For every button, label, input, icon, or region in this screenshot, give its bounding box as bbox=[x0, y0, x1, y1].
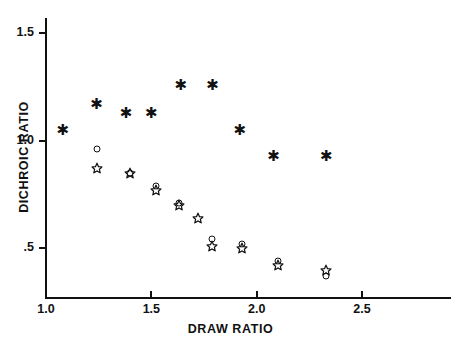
y-tick-1.0 bbox=[39, 140, 46, 142]
data-point-star bbox=[150, 184, 161, 195]
x-tick-label-2.5: 2.5 bbox=[342, 302, 382, 316]
x-tick-label-1.0: 1.0 bbox=[26, 302, 66, 316]
data-point-asterisk: ✱ bbox=[206, 81, 219, 89]
data-point-star bbox=[91, 163, 102, 174]
data-point-star bbox=[236, 243, 247, 254]
data-point-asterisk: ✱ bbox=[90, 100, 103, 108]
data-point-asterisk: ✱ bbox=[267, 152, 280, 160]
y-tick-1.5 bbox=[39, 32, 46, 34]
plot-area: ✱✱✱✱✱✱✱✱✱ bbox=[46, 18, 450, 298]
y-tick-.5 bbox=[39, 247, 46, 249]
y-axis-label: DICHROIC RATIO bbox=[17, 67, 31, 247]
data-point-asterisk: ✱ bbox=[57, 126, 70, 134]
data-point-star bbox=[272, 260, 283, 271]
x-tick-label-2.0: 2.0 bbox=[237, 302, 277, 316]
x-tick-label-1.5: 1.5 bbox=[131, 302, 171, 316]
data-point-star bbox=[192, 212, 203, 223]
y-tick-label-1.5: 1.5 bbox=[0, 25, 34, 39]
chart-figure: 1.51.0.51.01.52.02.5 ✱✱✱✱✱✱✱✱✱ DRAW RATI… bbox=[0, 0, 461, 342]
data-point-circle bbox=[93, 146, 100, 153]
data-point-asterisk: ✱ bbox=[175, 81, 188, 89]
data-point-star bbox=[125, 167, 136, 178]
data-point-star bbox=[207, 240, 218, 251]
data-point-star bbox=[321, 264, 332, 275]
data-point-asterisk: ✱ bbox=[145, 109, 158, 117]
data-point-asterisk: ✱ bbox=[320, 152, 333, 160]
data-point-star bbox=[173, 200, 184, 211]
data-point-asterisk: ✱ bbox=[234, 126, 247, 134]
x-axis-label: DRAW RATIO bbox=[0, 322, 461, 336]
data-point-asterisk: ✱ bbox=[120, 109, 133, 117]
